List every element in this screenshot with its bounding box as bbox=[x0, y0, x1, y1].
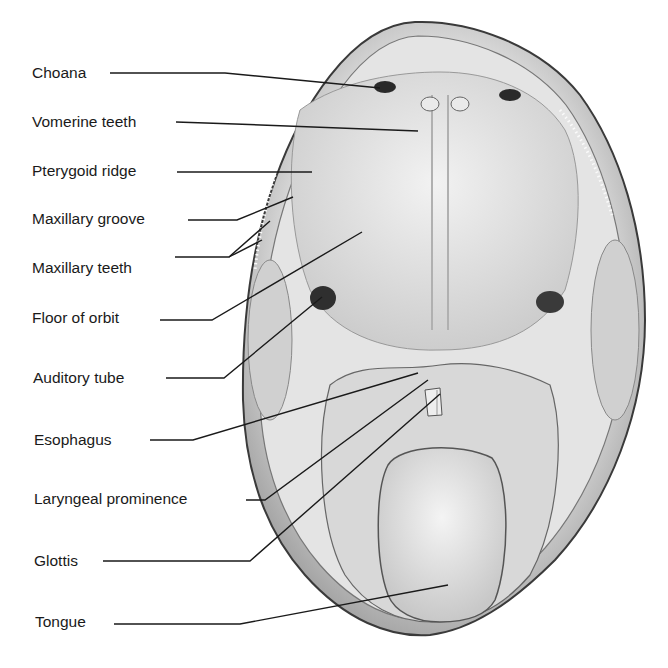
label-maxillary-groove: Maxillary groove bbox=[32, 210, 145, 228]
label-laryngeal-prominence: Laryngeal prominence bbox=[34, 490, 187, 508]
tongue-shape bbox=[378, 448, 506, 622]
label-tongue: Tongue bbox=[35, 613, 86, 631]
choana-left bbox=[374, 81, 396, 93]
label-maxillary-teeth: Maxillary teeth bbox=[32, 259, 132, 277]
auditory-tube-right bbox=[536, 291, 564, 313]
label-pterygoid-ridge: Pterygoid ridge bbox=[32, 162, 136, 180]
mouth-illustration bbox=[0, 0, 668, 668]
label-choana: Choana bbox=[32, 64, 86, 82]
label-glottis: Glottis bbox=[34, 552, 78, 570]
label-vomerine-teeth: Vomerine teeth bbox=[32, 113, 136, 131]
label-esophagus: Esophagus bbox=[34, 431, 112, 449]
auditory-tube-left bbox=[310, 286, 336, 310]
anatomy-diagram: Choana Vomerine teeth Pterygoid ridge Ma… bbox=[0, 0, 668, 668]
label-auditory-tube: Auditory tube bbox=[33, 369, 124, 387]
label-floor-of-orbit: Floor of orbit bbox=[32, 309, 119, 327]
choana-right bbox=[499, 89, 521, 101]
